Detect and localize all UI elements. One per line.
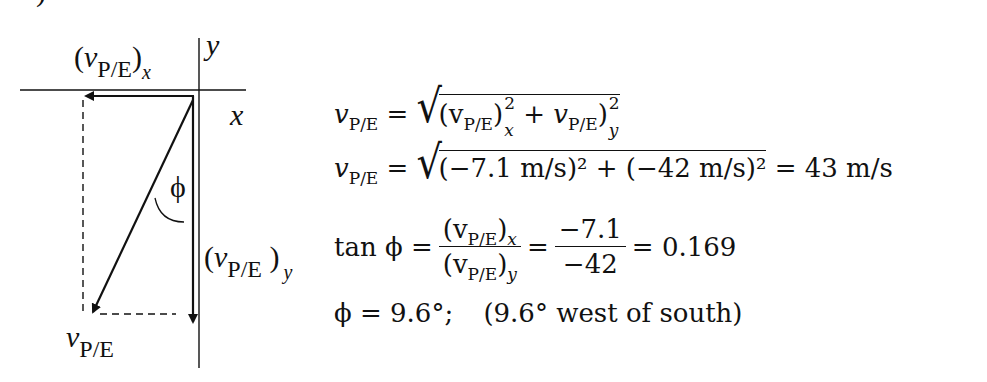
equation-magnitude-value: vP/E = √ (−7.1 m/s)² + (−42 m/s)² = 43 m… (334, 150, 893, 181)
sqrt-2: √ (−7.1 m/s)² + (−42 m/s)² (417, 150, 767, 181)
y-axis-label: y (206, 28, 219, 62)
resultant-label: vP/E (66, 320, 114, 354)
equation-magnitude-formula: vP/E = √ (vP/E)2x + vP/E)2y (334, 94, 620, 133)
equation-tangent: tan ϕ = (vP/E)x (vP/E)y = −7.1 −42 = 0.1… (334, 216, 736, 277)
sqrt-1: √ (vP/E)2x + vP/E)2y (417, 94, 620, 133)
resultant-arrow (93, 100, 193, 312)
angle-label: ϕ (170, 170, 186, 204)
fraction-values: −7.1 −42 (555, 216, 626, 277)
x-axis-label: x (230, 98, 243, 132)
y-component-label: (vP/E )y (204, 240, 292, 274)
equation-angle-result: ϕ = 9.6°; (9.6° west of south) (334, 300, 743, 326)
fraction-components: (vP/E)x (vP/E)y (439, 216, 521, 277)
x-component-label: (vP/E)x (74, 40, 151, 74)
